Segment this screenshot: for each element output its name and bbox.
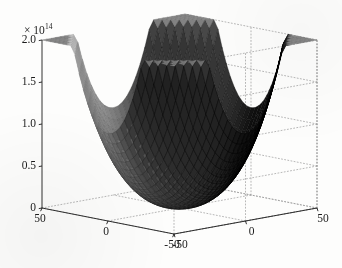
z-tick-label-2: 1.0 [22,118,36,130]
y-tick-label-2: 50 [317,213,329,225]
y-tick-label-0: -50 [172,239,187,251]
figure-3d-surface-plot: 00.51.01.52.0-50050-50050× 1014 [0,0,342,268]
exponent-base: × 10 [24,24,45,36]
x-tick-label-2: 50 [34,213,46,225]
mesh-surface [42,14,317,209]
surface-plot-canvas [0,0,342,268]
exponent-power: 14 [45,22,53,31]
z-axis-exponent-label: × 1014 [24,23,52,36]
x-tick-label-1: 0 [103,226,109,238]
y-tick-label-1: 0 [249,226,255,238]
z-tick-label-3: 1.5 [22,76,36,88]
z-tick-label-1: 0.5 [22,160,36,172]
